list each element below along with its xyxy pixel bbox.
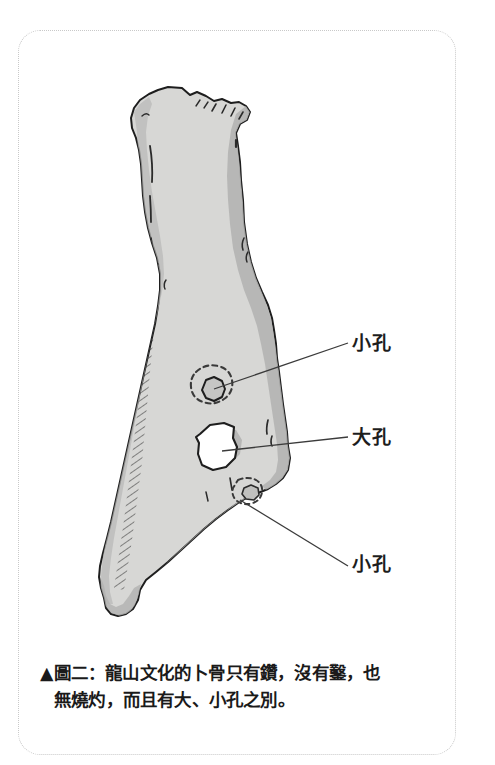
oracle-bone-illustration	[0, 0, 495, 765]
leader-line-small-hole-bottom	[240, 500, 348, 566]
figure-page: 小孔 大孔 小孔 ▲圖二：龍山文化的卜骨只有鑽，沒有鑿，也 無燒灼，而且有大、小…	[0, 0, 495, 765]
figure-caption-line-2: 無燒灼，而且有大、小孔之別。	[40, 687, 440, 714]
label-small-hole-bottom: 小孔	[352, 555, 392, 574]
small-hole-lower-bore	[242, 485, 259, 500]
label-small-hole-top: 小孔	[352, 334, 392, 353]
small-hole-upper-bore	[202, 377, 225, 401]
bone-body	[99, 87, 290, 616]
figure-caption-line-1: ▲圖二：龍山文化的卜骨只有鑽，沒有鑿，也	[40, 663, 380, 683]
figure-caption: ▲圖二：龍山文化的卜骨只有鑽，沒有鑿，也 無燒灼，而且有大、小孔之別。	[40, 660, 440, 714]
label-large-hole: 大孔	[352, 428, 392, 447]
